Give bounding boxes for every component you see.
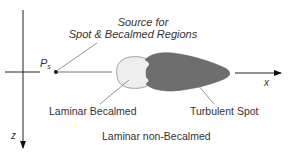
becalmed-leader-line <box>100 80 129 104</box>
source-leader-line <box>58 43 97 70</box>
z-axis-label: z <box>10 130 16 141</box>
becalmed-region <box>117 57 150 89</box>
turbulent-spot <box>145 53 230 91</box>
spot-label: Turbulent Spot <box>190 105 259 117</box>
turbulent-spot-diagram: Source for Spot & Becalmed Regions Ps x … <box>0 0 293 153</box>
point-label: Ps <box>40 57 51 70</box>
source-label-line2: Spot & Becalmed Regions <box>69 28 198 40</box>
non-becalmed-label: Laminar non-Becalmed <box>102 130 211 142</box>
diagram-svg: Source for Spot & Becalmed Regions Ps x … <box>0 0 293 153</box>
point-label-subscript: s <box>47 63 51 70</box>
becalmed-label: Laminar Becalmed <box>49 105 137 117</box>
x-axis-label: x <box>263 77 270 88</box>
source-label-line1: Source for <box>118 16 170 28</box>
